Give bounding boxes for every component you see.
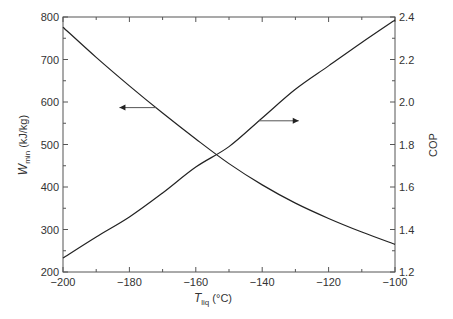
y-right-tick-label: 2.2	[399, 54, 414, 66]
y-right-tick-label: 1.8	[399, 139, 414, 151]
axis-ticks	[63, 17, 395, 272]
y-right-tick-label: 2.0	[399, 96, 414, 108]
y-left-tick-label: 200	[41, 266, 59, 278]
y-right-tick-label: 1.6	[399, 181, 414, 193]
y-right-tick-label: 2.4	[399, 11, 414, 23]
y-left-tick-label: 400	[41, 181, 59, 193]
series-line-wmin	[63, 27, 395, 244]
y-right-tick-labels: 1.21.41.61.82.02.22.4	[399, 11, 414, 278]
y-left-tick-label: 600	[41, 96, 59, 108]
y-right-tick-label: 1.4	[399, 224, 414, 236]
x-tick-labels: −200−180−160−140−120−100	[51, 276, 408, 288]
series-group	[63, 20, 395, 258]
series-line-cop	[63, 20, 395, 258]
y-left-tick-label: 800	[41, 11, 59, 23]
y-right-tick-label: 1.2	[399, 266, 414, 278]
arrow-head-right-icon	[293, 118, 299, 124]
y-left-tick-labels: 200300400500600700800	[41, 11, 59, 278]
y-left-axis-label: Wmin (kJ/kg)	[16, 115, 32, 175]
y-left-tick-label: 700	[41, 54, 59, 66]
y-right-axis-label: COP	[427, 133, 439, 157]
x-tick-label: −180	[117, 276, 142, 288]
arrow-head-left-icon	[119, 105, 125, 111]
annotation-arrows	[119, 105, 298, 124]
x-tick-label: −160	[183, 276, 208, 288]
x-axis-label: Tliq (°C)	[194, 291, 232, 307]
y-left-tick-label: 300	[41, 224, 59, 236]
y-left-tick-label: 500	[41, 139, 59, 151]
x-tick-label: −120	[316, 276, 341, 288]
plot-frame	[63, 17, 395, 272]
x-tick-label: −140	[250, 276, 275, 288]
chart: −200−180−160−140−120−100 200300400500600…	[0, 0, 453, 319]
